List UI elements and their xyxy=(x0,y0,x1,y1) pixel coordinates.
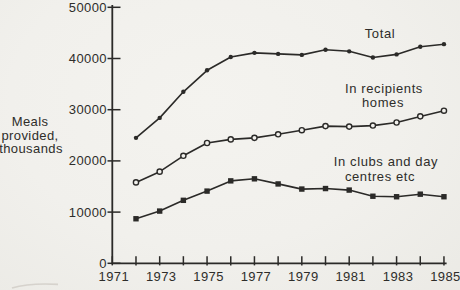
marker-square xyxy=(133,216,138,221)
marker-square xyxy=(370,194,375,199)
series xyxy=(133,42,446,221)
marker-square xyxy=(204,188,209,193)
series-label-total: Total xyxy=(365,26,395,41)
marker-dot xyxy=(300,53,304,57)
series-label-clubs-line-2: centres etc xyxy=(345,169,415,184)
marker-open-circle xyxy=(394,120,399,125)
marker-square xyxy=(157,208,162,213)
marker-square xyxy=(275,181,280,186)
x-tick-label: 1985 xyxy=(430,269,460,284)
marker-open-circle xyxy=(228,137,233,142)
marker-dot xyxy=(134,136,138,140)
y-tick-label: 0 xyxy=(99,256,107,271)
marker-dot xyxy=(347,49,351,53)
marker-open-circle xyxy=(323,123,328,128)
x-tick-label: 1973 xyxy=(146,269,177,284)
marker-open-circle xyxy=(276,132,281,137)
marker-open-circle xyxy=(181,153,186,158)
line-chart: 1971197319751977197919811983198501000020… xyxy=(0,0,460,290)
marker-open-circle xyxy=(418,114,423,119)
x-tick-label: 1983 xyxy=(383,269,414,284)
marker-square xyxy=(323,186,328,191)
marker-dot xyxy=(394,52,398,56)
marker-open-circle xyxy=(370,123,375,128)
marker-dot xyxy=(276,52,280,56)
marker-dot xyxy=(252,51,256,55)
x-tick-label: 1975 xyxy=(193,269,224,284)
series-label-clubs-line-1: In clubs and day xyxy=(334,154,438,169)
marker-dot xyxy=(205,68,209,72)
marker-square xyxy=(441,194,446,199)
y-tick-label: 20000 xyxy=(69,153,107,168)
marker-open-circle xyxy=(299,128,304,133)
marker-dot xyxy=(181,90,185,94)
marker-dot xyxy=(442,42,446,46)
x-tick-label: 1977 xyxy=(241,269,272,284)
y-tick-label: 40000 xyxy=(69,51,107,66)
chart-figure: 1971197319751977197919811983198501000020… xyxy=(0,0,460,290)
scan-artifact xyxy=(12,284,58,288)
marker-dot xyxy=(229,55,233,59)
marker-open-circle xyxy=(157,169,162,174)
y-tick-label: 50000 xyxy=(69,0,107,15)
axes: 1971197319751977197919811983198501000020… xyxy=(69,0,460,284)
marker-dot xyxy=(323,48,327,52)
marker-open-circle xyxy=(204,140,209,145)
y-tick-label: 30000 xyxy=(69,102,107,117)
marker-square xyxy=(228,178,233,183)
marker-square xyxy=(394,194,399,199)
y-axis-title-line-3: thousands xyxy=(0,141,63,156)
marker-dot xyxy=(157,116,161,120)
marker-square xyxy=(299,186,304,191)
x-tick-label: 1981 xyxy=(335,269,366,284)
marker-square xyxy=(252,176,257,181)
marker-square xyxy=(181,198,186,203)
series-label-homes-line-2: homes xyxy=(362,95,404,110)
marker-open-circle xyxy=(133,180,138,185)
marker-dot xyxy=(371,55,375,59)
x-tick-label: 1971 xyxy=(99,269,130,284)
marker-open-circle xyxy=(252,135,257,140)
marker-dot xyxy=(418,45,422,49)
x-tick-label: 1979 xyxy=(288,269,319,284)
marker-square xyxy=(418,191,423,196)
marker-square xyxy=(347,187,352,192)
marker-open-circle xyxy=(347,124,352,129)
y-tick-label: 10000 xyxy=(69,205,107,220)
marker-open-circle xyxy=(441,108,446,113)
